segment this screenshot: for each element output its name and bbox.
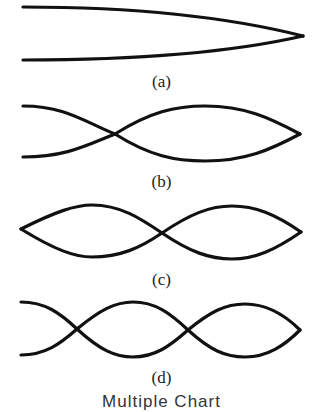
panel-label-d: (d) bbox=[0, 368, 320, 388]
panel-label-c: (c) bbox=[0, 270, 320, 290]
panel-label-a: (a) bbox=[0, 72, 320, 92]
panel-label-b: (b) bbox=[0, 172, 320, 192]
wave-c bbox=[21, 205, 301, 259]
figure-caption: Multiple Chart bbox=[0, 392, 320, 412]
wave-b bbox=[23, 106, 300, 161]
wave-a bbox=[23, 7, 303, 60]
wave-d bbox=[21, 302, 300, 357]
